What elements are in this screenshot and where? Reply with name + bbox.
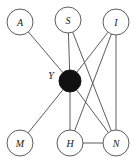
node-label-y: Y <box>48 70 55 81</box>
node-label-n: N <box>112 138 121 149</box>
nodes-layer: ASIYMHN <box>7 7 129 156</box>
node-circle-y[interactable] <box>59 70 81 92</box>
node-label-h: H <box>65 138 74 149</box>
node-label-a: A <box>16 17 24 28</box>
node-label-m: M <box>15 138 25 149</box>
graph-edge-i-y <box>77 32 108 72</box>
graph-node-n[interactable]: N <box>103 130 129 156</box>
graph-edge-s-y <box>68 33 69 70</box>
graph-figure: ASIYMHN <box>0 0 136 163</box>
graph-node-h[interactable]: H <box>57 130 83 156</box>
graph-canvas: ASIYMHN <box>0 0 136 163</box>
graph-edge-a-y <box>28 32 62 73</box>
node-label-s: S <box>66 15 71 26</box>
graph-node-i[interactable]: I <box>103 9 129 35</box>
graph-node-y[interactable]: Y <box>48 70 81 93</box>
graph-node-m[interactable]: M <box>7 130 33 156</box>
graph-node-s[interactable]: S <box>55 7 81 33</box>
graph-edge-m-y <box>28 90 63 133</box>
node-label-i: I <box>113 17 118 28</box>
graph-node-a[interactable]: A <box>7 9 33 35</box>
